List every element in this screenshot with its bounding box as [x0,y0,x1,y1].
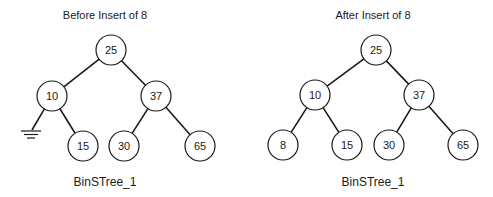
edge-n25-n37 [121,61,145,86]
edge-n10-n8 [291,108,307,133]
node-label: 15 [77,140,89,152]
bst-insert-diagram: Before Insert of 8 251037153065 BinSTree… [0,0,493,197]
tree-node-n30: 30 [109,131,139,161]
tree-after: After Insert of 8 2510378153065 BinSTree… [268,9,478,189]
edge-n10-n15 [323,108,339,133]
tree-node-n65: 65 [448,130,478,160]
node-label: 65 [457,139,469,151]
tree-node-n8: 8 [268,130,298,160]
tree-title-after: After Insert of 8 [335,9,410,21]
node-label: 25 [370,44,382,56]
tree-node-n30: 30 [374,130,404,160]
node-label: 10 [309,89,321,101]
tree-node-n10: 10 [300,80,330,110]
tree-node-n37: 37 [404,80,434,110]
null-link-edge [32,109,44,130]
edge-n37-n65 [166,107,190,134]
tree-node-n15: 15 [332,130,362,160]
edge-n10-n15 [60,109,75,134]
tree-node-n65: 65 [185,131,215,161]
edge-n37-n30 [397,108,412,132]
tree-caption-before: BinSTree_1 [74,175,137,189]
ground-null-pointer-icon [21,131,41,138]
node-label: 37 [413,89,425,101]
edge-n37-n65 [429,106,453,133]
node-label: 10 [46,90,58,102]
edge-n25-n10 [327,59,364,86]
node-label: 65 [194,140,206,152]
nodes-before: 251037153065 [37,35,215,161]
node-label: 25 [105,44,117,56]
node-label: 30 [118,140,130,152]
edge-n25-n10 [64,59,99,87]
node-label: 15 [341,139,353,151]
tree-before: Before Insert of 8 251037153065 BinSTree… [21,9,215,189]
tree-title-before: Before Insert of 8 [63,9,147,21]
tree-node-n10: 10 [37,81,67,111]
node-label: 30 [383,139,395,151]
nodes-after: 2510378153065 [268,35,478,160]
node-label: 8 [280,139,286,151]
tree-node-n25: 25 [361,35,391,65]
tree-caption-after: BinSTree_1 [342,175,405,189]
tree-node-n15: 15 [68,131,98,161]
node-label: 37 [150,90,162,102]
edge-n25-n37 [386,61,408,84]
tree-node-n37: 37 [141,81,171,111]
tree-node-n25: 25 [96,35,126,65]
edge-n37-n30 [132,109,148,134]
